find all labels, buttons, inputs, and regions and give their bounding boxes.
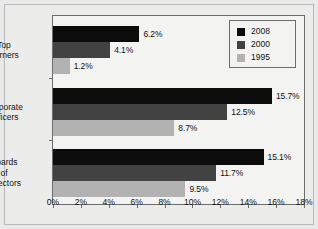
x-axis-label: 10%	[177, 197, 207, 207]
legend-item-2008: 2008	[237, 25, 295, 38]
y-axis-tick	[49, 140, 53, 141]
legend-item-1995: 1995	[237, 51, 295, 64]
bar-value-label: 15.1%	[268, 152, 292, 162]
chart-legend: 200820001995	[229, 20, 296, 68]
bar-value-label: 6.2%	[143, 29, 162, 39]
x-axis-label: 8%	[150, 197, 180, 207]
bar-1995-corporate-officers	[53, 120, 174, 136]
bar-row: 15.7%	[53, 88, 304, 104]
x-axis-label: 16%	[261, 197, 291, 207]
x-axis-label: 6%	[122, 197, 152, 207]
bar-1995-top-earners	[53, 58, 70, 74]
x-axis-label: 18%	[289, 197, 318, 207]
bar-2000-corporate-officers	[53, 104, 227, 120]
x-axis-label: 14%	[233, 197, 263, 207]
bar-value-label: 15.7%	[276, 91, 300, 101]
x-axis-label: 0%	[38, 197, 68, 207]
legend-label: 2008	[251, 27, 270, 36]
chart-screenshot: 6.2%4.1%1.2%Top Earners15.7%12.5%8.7%Cor…	[0, 0, 318, 229]
bar-2000-top-earners	[53, 42, 110, 58]
bar-2000-boards-of-directors	[53, 165, 216, 181]
bar-2008-top-earners	[53, 26, 139, 42]
category-label: Boards of Directors	[0, 157, 34, 189]
bar-row: 8.7%	[53, 120, 304, 136]
x-axis-label: 2%	[66, 197, 96, 207]
bar-value-label: 1.2%	[74, 61, 93, 71]
bar-1995-boards-of-directors	[53, 181, 185, 197]
category-label: Corporate Officers	[0, 102, 34, 123]
bar-value-label: 8.7%	[178, 123, 197, 133]
bar-value-label: 12.5%	[231, 107, 255, 117]
x-axis-label: 4%	[94, 197, 124, 207]
bar-2008-corporate-officers	[53, 88, 272, 104]
bar-row: 12.5%	[53, 104, 304, 120]
legend-item-2000: 2000	[237, 38, 295, 51]
bar-row: 11.7%	[53, 165, 304, 181]
bar-row: 15.1%	[53, 149, 304, 165]
legend-swatch-icon	[237, 28, 245, 36]
bar-group: 15.1%11.7%9.5%	[53, 149, 304, 197]
bar-group: 15.7%12.5%8.7%	[53, 88, 304, 136]
bar-row: 9.5%	[53, 181, 304, 197]
y-axis-tick	[49, 78, 53, 79]
legend-swatch-icon	[237, 41, 245, 49]
legend-label: 1995	[251, 53, 270, 62]
legend-swatch-icon	[237, 54, 245, 62]
bar-2008-boards-of-directors	[53, 149, 264, 165]
category-label: Top Earners	[0, 40, 34, 61]
bar-value-label: 4.1%	[114, 45, 133, 55]
legend-label: 2000	[251, 40, 270, 49]
bar-value-label: 9.5%	[189, 184, 208, 194]
bar-value-label: 11.7%	[220, 168, 243, 178]
x-axis-label: 12%	[205, 197, 235, 207]
